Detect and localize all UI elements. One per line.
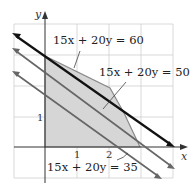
label-line-60: 15x + 20y = 60 [53, 33, 144, 47]
label-line-35: 15x + 20y = 35 [47, 160, 138, 174]
linear-programming-diagram: 15x + 20y = 60 15x + 20y = 50 15x + 20y … [0, 0, 195, 185]
y-axis-arrow-icon [42, 11, 48, 19]
y-tick-1: 1 [37, 112, 43, 123]
y-axis-label: y [34, 8, 42, 21]
x-tick-1: 1 [74, 149, 80, 160]
label-line-50: 15x + 20y = 50 [99, 65, 190, 79]
x-axis-label: x [181, 150, 188, 163]
x-tick-2: 2 [106, 149, 112, 160]
